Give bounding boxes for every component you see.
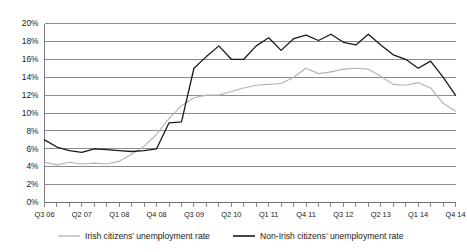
y-axis-tick-label: 4%	[26, 161, 39, 171]
y-axis-tick-label: 16%	[22, 54, 39, 64]
x-axis-tick-label: Q1 14	[408, 210, 428, 219]
y-axis-tick-label: 8%	[26, 126, 39, 136]
legend-label-1: Irish citizens' unemployment rate	[85, 231, 210, 241]
x-axis-tick-label: Q3 06	[34, 210, 54, 219]
series-line-2	[45, 34, 456, 152]
y-axis-tick-label: 20%	[22, 18, 39, 28]
gridlines	[45, 24, 456, 203]
y-axis-tick-label: 18%	[22, 36, 39, 46]
x-axis-tick-label: Q2 10	[221, 210, 241, 219]
y-axis-tick-label: 2%	[26, 179, 39, 189]
y-axis-tick-label: 10%	[22, 108, 39, 118]
chart-container: 0%2%4%6%8%10%12%14%16%18%20% Q3 06Q2 07Q…	[0, 0, 467, 252]
x-axis-tick-label: Q4 08	[147, 210, 167, 219]
x-axis-tick-label: Q2 13	[371, 210, 391, 219]
x-axis-tick-label: Q2 07	[72, 210, 92, 219]
legend-label-2: Non-Irish citizens' unemployment rate	[260, 231, 404, 241]
x-axis-tick-label: Q4 11	[296, 210, 316, 219]
x-axis-tick-label: Q1 08	[109, 210, 129, 219]
x-axis-tick-label: Q4 14	[445, 210, 465, 219]
unemployment-rate-line-chart: 0%2%4%6%8%10%12%14%16%18%20% Q3 06Q2 07Q…	[0, 0, 467, 252]
data-series	[45, 34, 456, 165]
x-axis-tick-marks	[45, 203, 456, 207]
x-axis-tick-label: Q3 12	[333, 210, 353, 219]
y-axis-tick-label: 6%	[26, 144, 39, 154]
y-axis-tick-label: 12%	[22, 90, 39, 100]
chart-legend: Irish citizens' unemployment rateNon-Iri…	[58, 231, 404, 241]
y-axis-tick-label: 0%	[26, 197, 39, 207]
y-axis-tick-labels: 0%2%4%6%8%10%12%14%16%18%20%	[22, 18, 39, 207]
y-axis-tick-label: 14%	[22, 72, 39, 82]
x-axis-tick-label: Q1 11	[259, 210, 279, 219]
series-line-1	[45, 68, 456, 165]
x-axis-tick-labels: Q3 06Q2 07Q1 08Q4 08Q3 09Q2 10Q1 11Q4 11…	[34, 210, 465, 219]
x-axis-tick-label: Q3 09	[184, 210, 204, 219]
